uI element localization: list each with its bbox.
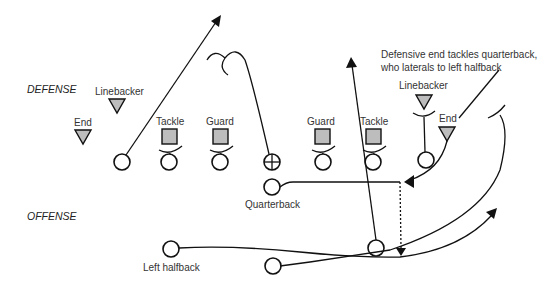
left-end-offense	[114, 154, 130, 170]
arrow-head-icon	[404, 175, 414, 188]
linebacker-stem	[424, 117, 425, 152]
left-end-label: End	[74, 117, 92, 128]
annotation-leader-line	[459, 70, 499, 118]
block-arc-right-guard	[312, 146, 335, 152]
block-arc-left-tackle	[159, 146, 182, 152]
right-tackle-offense	[365, 154, 381, 170]
far-right-route	[280, 105, 505, 266]
right-linebacker-label: Linebacker	[399, 80, 449, 91]
left-tackle-offense	[161, 154, 177, 170]
arrow-head-icon	[346, 57, 357, 68]
right-end-offense	[418, 152, 434, 168]
fullback-player	[368, 240, 384, 256]
right-end-label: End	[439, 113, 457, 124]
left-guard-label: Guard	[206, 116, 234, 127]
left-end-defender	[75, 130, 91, 144]
lateral-dashed-line	[400, 182, 401, 248]
left-halfback-route	[179, 215, 492, 257]
annotation-line-1: Defensive end tackles quarterback,	[381, 49, 537, 60]
left-tackle-defender	[162, 129, 177, 144]
arrow-head-icon	[211, 15, 221, 27]
center-offense	[264, 154, 280, 170]
left-linebacker-defender	[109, 99, 125, 113]
right-halfback-player	[265, 258, 281, 274]
annotation-line-2: who laterals to left halfback	[380, 62, 503, 73]
block-arc-left-guard	[210, 146, 233, 152]
right-end-defender	[439, 127, 455, 141]
right-tackle-defender	[366, 129, 381, 144]
left-guard-defender	[213, 129, 228, 144]
quarterback-label: Quarterback	[245, 199, 301, 210]
left-guard-offense	[212, 154, 228, 170]
right-guard-defender	[315, 129, 330, 144]
arrow-head-icon	[486, 208, 497, 219]
quarterback-route	[280, 182, 400, 187]
right-tackle-label: Tackle	[360, 116, 389, 127]
right-guard-label: Guard	[307, 116, 335, 127]
right-linebacker-defender	[416, 95, 432, 109]
linebacker-block-arc	[413, 111, 435, 116]
quarterback-player	[264, 179, 280, 195]
block-arc-right-tackle	[363, 146, 386, 152]
arrow-head-icon	[396, 248, 406, 256]
left-tackle-label: Tackle	[156, 116, 185, 127]
defense-label: DEFENSE	[27, 83, 78, 95]
left-halfback-label: Left halfback	[143, 262, 201, 273]
left-linebacker-label: Linebacker	[95, 86, 145, 97]
left-halfback-player	[163, 241, 179, 257]
offense-label: OFFENSE	[27, 210, 78, 222]
right-guard-offense	[315, 154, 331, 170]
play-diagram: DEFENSE OFFENSE Defensive end tackles qu…	[0, 0, 559, 292]
